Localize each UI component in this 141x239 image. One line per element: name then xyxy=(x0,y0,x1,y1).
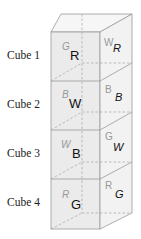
cube-3-right-hidden-letter: G xyxy=(105,131,113,142)
cube-4-right-letter: G xyxy=(115,188,124,200)
cube-3-front-letter: B xyxy=(72,146,81,161)
cube-4-right-hidden-letter: R xyxy=(105,180,112,191)
cube-1-right-letter: R xyxy=(113,42,121,54)
cube-3-right-letter: W xyxy=(113,141,125,153)
cube-4-front-letter: G xyxy=(71,197,81,212)
cube-1-front-letter: R xyxy=(70,48,79,63)
cube-stack-drawing: G R W R B W B B W B G W R G R G xyxy=(0,0,141,239)
cube-2-front-hidden-letter: B xyxy=(62,89,69,100)
cube-3-front-hidden-letter: W xyxy=(61,139,72,150)
cube-2-right-letter: B xyxy=(115,91,122,103)
cube-2-front-letter: W xyxy=(69,96,82,111)
cube-4-front-hidden-letter: R xyxy=(62,189,69,200)
cube-1-front-hidden-letter: G xyxy=(62,41,70,52)
cube-2-right-hidden-letter: B xyxy=(105,84,112,95)
cube-stack-diagram: Cube 1 Cube 2 Cube 3 Cube 4 xyxy=(0,0,141,239)
